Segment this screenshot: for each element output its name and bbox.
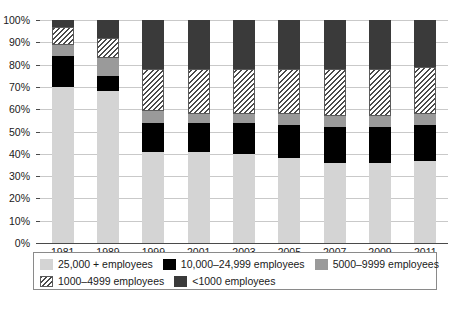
bar-segment	[233, 20, 255, 69]
bar-segment	[233, 114, 255, 123]
y-axis-tick-mark	[36, 87, 40, 88]
bar-segment	[324, 116, 346, 127]
bar-2001[interactable]	[188, 20, 210, 243]
bar-segment	[233, 123, 255, 154]
bar-segment	[414, 125, 436, 161]
bar-segment	[188, 20, 210, 69]
y-axis-tick-mark	[36, 243, 40, 244]
bar-segment	[278, 158, 300, 243]
y-axis-tick-mark	[36, 20, 40, 21]
bar-1989[interactable]	[97, 20, 119, 243]
bar-segment	[97, 76, 119, 92]
bar-segment	[52, 20, 74, 27]
bar-2003[interactable]	[233, 20, 255, 243]
legend-label: 1000–4999 employees	[58, 276, 164, 287]
y-axis-tick-mark	[36, 154, 40, 155]
y-axis-tick-mark	[36, 198, 40, 199]
bar-segment	[52, 56, 74, 87]
legend-item[interactable]: <1000 employees	[174, 276, 275, 287]
bar-1981[interactable]	[52, 20, 74, 243]
bar-segment	[414, 114, 436, 125]
bar-segment	[369, 163, 391, 243]
y-axis-tick-mark	[36, 65, 40, 66]
bar-1999[interactable]	[142, 20, 164, 243]
figure: 0%10%20%30%40%50%60%70%80%90%100%1981198…	[0, 0, 454, 312]
bar-segment	[369, 20, 391, 69]
bar-2011[interactable]	[414, 20, 436, 243]
bar-segment	[97, 91, 119, 243]
x-axis-line	[40, 243, 448, 244]
y-axis-tick-label: 10%	[0, 216, 30, 227]
bar-segment	[324, 163, 346, 243]
y-axis-tick-label: 0%	[0, 238, 30, 249]
legend-swatch-icon	[40, 276, 53, 287]
figure-caption	[6, 299, 452, 312]
bar-segment	[142, 152, 164, 243]
bar-segment	[414, 67, 436, 114]
bar-segment	[278, 20, 300, 69]
bar-segment	[97, 38, 119, 58]
bar-segment	[414, 20, 436, 67]
y-axis-tick-mark	[36, 176, 40, 177]
bar-segment	[278, 69, 300, 114]
y-axis-tick-label: 50%	[0, 127, 30, 138]
bar-segment	[233, 69, 255, 114]
legend-swatch-icon	[174, 276, 187, 287]
bar-segment	[278, 125, 300, 158]
bar-segment	[52, 27, 74, 45]
legend-item[interactable]: 25,000 + employees	[40, 259, 153, 270]
bar-segment	[369, 69, 391, 116]
legend-label: 5000–9999 employees	[333, 259, 439, 270]
legend-label: 10,000–24,999 employees	[181, 259, 305, 270]
bar-segment	[188, 69, 210, 114]
bar-segment	[188, 123, 210, 152]
y-axis-tick-label: 40%	[0, 149, 30, 160]
chart-legend: 25,000 + employees10,000–24,999 employee…	[33, 252, 437, 290]
bar-segment	[324, 69, 346, 116]
y-axis-tick-label: 80%	[0, 60, 30, 71]
legend-row: 25,000 + employees10,000–24,999 employee…	[40, 256, 430, 273]
bar-segment	[324, 127, 346, 163]
y-axis-tick-mark	[36, 42, 40, 43]
bar-segment	[142, 69, 164, 111]
plot-area: 0%10%20%30%40%50%60%70%80%90%100%1981198…	[40, 20, 448, 243]
bar-2009[interactable]	[369, 20, 391, 243]
legend-label: <1000 employees	[192, 276, 275, 287]
legend-row: 1000–4999 employees<1000 employees	[40, 273, 430, 290]
bar-segment	[52, 87, 74, 243]
bar-segment	[324, 20, 346, 69]
bar-segment	[142, 111, 164, 122]
bar-segment	[233, 154, 255, 243]
bar-segment	[188, 114, 210, 123]
y-axis-tick-mark	[36, 221, 40, 222]
y-axis-tick-mark	[36, 109, 40, 110]
bar-segment	[369, 127, 391, 163]
bar-segment	[188, 152, 210, 243]
bar-segment	[414, 161, 436, 244]
y-axis-tick-label: 90%	[0, 37, 30, 48]
legend-item[interactable]: 5000–9999 employees	[315, 259, 439, 270]
y-axis-tick-label: 60%	[0, 104, 30, 115]
bar-segment	[97, 58, 119, 76]
y-axis-tick-label: 30%	[0, 171, 30, 182]
legend-item[interactable]: 10,000–24,999 employees	[163, 259, 305, 270]
bar-segment	[52, 45, 74, 56]
legend-swatch-icon	[40, 259, 53, 270]
y-axis-tick-mark	[36, 132, 40, 133]
y-axis-tick-label: 100%	[0, 15, 30, 26]
y-axis-tick-label: 20%	[0, 193, 30, 204]
legend-item[interactable]: 1000–4999 employees	[40, 276, 164, 287]
legend-swatch-icon	[163, 259, 176, 270]
bar-segment	[278, 114, 300, 125]
bar-segment	[142, 20, 164, 69]
y-axis-tick-label: 70%	[0, 82, 30, 93]
legend-swatch-icon	[315, 259, 328, 270]
bar-segment	[97, 20, 119, 38]
legend-label: 25,000 + employees	[58, 259, 153, 270]
bar-2007[interactable]	[324, 20, 346, 243]
bar-segment	[369, 116, 391, 127]
bar-segment	[142, 123, 164, 152]
bar-2005[interactable]	[278, 20, 300, 243]
